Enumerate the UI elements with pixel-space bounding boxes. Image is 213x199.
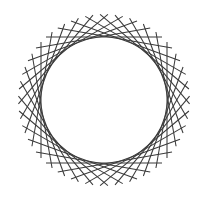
tangent-circle-envelope-figure — [0, 0, 213, 199]
figure-canvas — [0, 0, 213, 199]
